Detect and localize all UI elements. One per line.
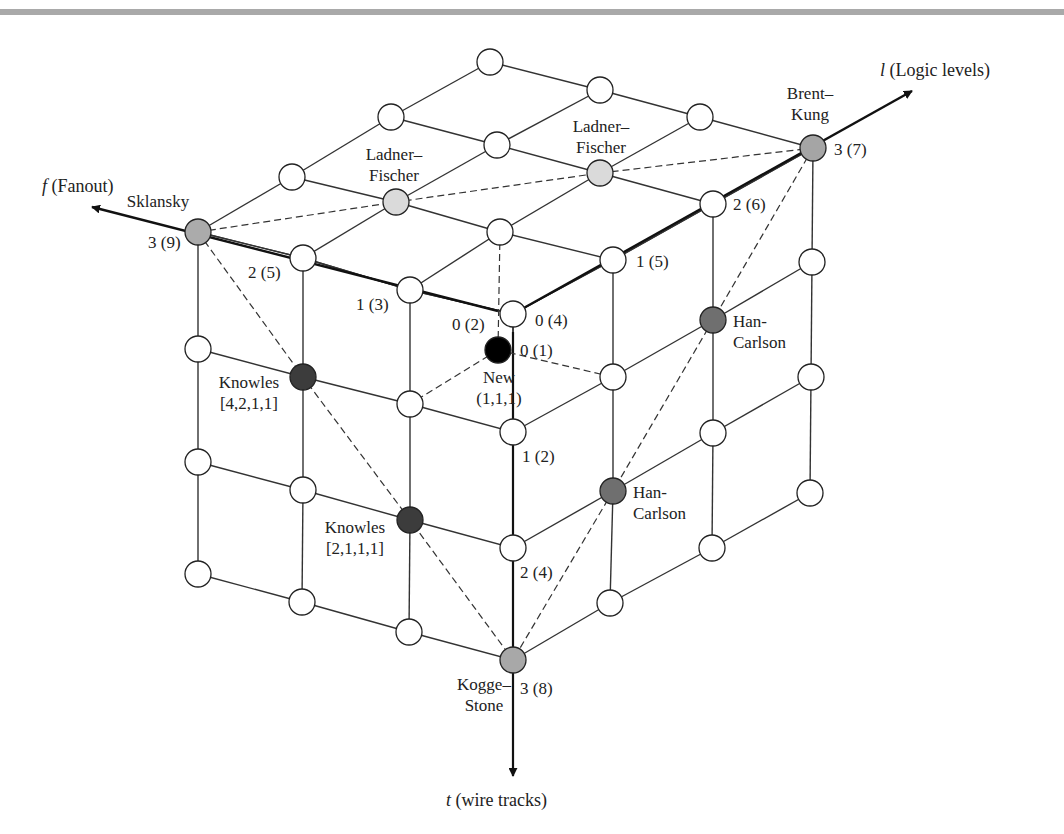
lattice-node [487,219,513,245]
new-node [485,337,511,363]
lattice-node [289,589,315,615]
axis-tick-label: 2 (6) [733,195,766,214]
grid-edge [610,491,613,603]
ladner-fischer-f1-l2-node [587,160,613,186]
new-label: New(1,1,1) [476,368,521,408]
lattice-node [477,49,503,75]
grid-edge [712,493,810,548]
knowles-4-2-1-1-label: Knowles[4,2,1,1] [219,373,279,413]
grid-edge [391,62,490,117]
brent-kung-node [800,135,826,161]
grid-edge [712,433,713,548]
grid-edge [391,117,497,145]
axis-tick-label: 3 (8) [520,679,553,698]
grid-edge [410,520,513,548]
lattice-node [799,249,825,275]
ladner-fischer-f1-l2-label: Ladner–Fischer [573,117,630,157]
axis-tick-label: 2 (4) [520,563,553,582]
kogge-stone-node [500,647,526,673]
dashed-diagonal [498,350,613,377]
han-carlson-l2-t1-node [700,307,726,333]
grid-edge [513,603,610,660]
lattice-node [700,420,726,446]
axis-tick-label: 3 (9) [148,233,181,252]
kogge-stone-label: Kogge–Stone [457,675,511,715]
grid-edge [410,404,513,432]
grid-edge [396,202,500,232]
lattice-node [700,191,726,217]
knowles-4-2-1-1-node [290,364,316,390]
grid-edge [713,377,811,433]
grid-edge [303,377,410,404]
lattice-node [290,477,316,503]
grid-edge [812,148,813,262]
han-carlson-l1-t2-label: Han-Carlson [633,483,686,523]
knowles-2-1-1-1-node [397,507,423,533]
grid-edge [600,90,700,117]
lattice-node [279,164,305,190]
wire-tracks-axis-label: t (wire tracks) [446,790,547,811]
han-carlson-l1-t2-node [600,478,626,504]
grid-edge [490,62,600,90]
lattice-node [600,364,626,390]
axis-tick-label: 0 (4) [535,311,568,330]
dashed-diagonal [513,148,813,660]
axis-tick-label: 0 (1) [520,341,553,360]
axis-tick-label: 3 (7) [834,140,867,159]
grid-edge [500,173,600,232]
lattice-node [397,391,423,417]
grid-edge [513,377,613,432]
lattice-node [699,535,725,561]
grid-edge [303,490,410,520]
lattice-node [290,245,316,271]
sklansky-label: Sklansky [127,192,190,211]
grid-edge [302,490,303,602]
grid-edge [513,491,613,548]
lattice-node [185,449,211,475]
grid-edge [810,377,811,493]
lattice-node [185,561,211,587]
grid-edge [302,602,409,632]
lattice-node [798,364,824,390]
axis-tick-label: 2 (5) [248,263,281,282]
lattice-node [378,104,404,130]
axis-tick-label: 1 (3) [356,295,389,314]
sklansky-node [185,219,211,245]
logic-levels-axis-label: l (Logic levels) [880,60,990,81]
grid-edge [198,574,302,602]
ladner-fischer-f2-l1-node [383,189,409,215]
lattice-node [600,247,626,273]
grid-edge [613,320,713,377]
lattice-node [500,535,526,561]
grid-edge [811,262,812,377]
dashed-diagonal [498,232,500,350]
lattice-node [597,590,623,616]
lattice-node [500,301,526,327]
lattice-node [797,480,823,506]
axis-tick-label: 0 (2) [452,315,485,334]
grid-edge [409,520,410,632]
lattice-node [397,277,423,303]
han-carlson-l2-t1-label: Han-Carlson [733,312,786,352]
axis-tick-label: 1 (2) [522,447,555,466]
axis-tick-label: 1 (5) [636,252,669,271]
grid-edge [198,177,292,232]
lattice-node [396,619,422,645]
brent-kung-label: Brent–Kung [787,84,834,124]
knowles-2-1-1-1-label: Knowles[2,1,1,1] [325,518,385,558]
grid-edge [600,173,713,204]
node-labels: SklanskyLadner–FischerLadner–FischerBren… [127,84,834,715]
grid-edge [198,462,303,490]
lattice-node [185,336,211,362]
grid-edge [610,548,712,603]
grid-edge [500,232,613,260]
ladner-fischer-f2-l1-label: Ladner–Fischer [366,145,423,185]
lattice-node [687,104,713,130]
grid-edge [409,632,513,660]
lattice-node [587,77,613,103]
adder-design-space-cube: SklanskyLadner–FischerLadner–FischerBren… [0,0,1064,834]
grid-edge [303,202,396,258]
lattice-node [500,419,526,445]
grid-edge [410,232,500,290]
lattice-node [484,132,510,158]
